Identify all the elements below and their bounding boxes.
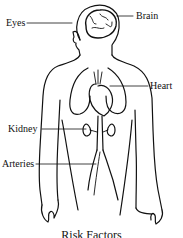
left-shoulder: [39, 55, 80, 205]
head-outline: [77, 5, 119, 55]
face-profile: [73, 31, 80, 55]
right-arm-inner: [135, 110, 136, 208]
left-arm-inner: [57, 100, 60, 200]
left-hand: [41, 200, 58, 222]
label-kidney: Kidney: [8, 124, 37, 134]
right-lung: [106, 68, 126, 114]
label-brain: Brain: [136, 11, 158, 21]
left-lung: [70, 68, 90, 114]
figure-caption: Risk Factors: [0, 229, 183, 238]
iliac-arteries: [88, 150, 118, 200]
body-diagram: [0, 0, 183, 238]
heart-shape: [89, 84, 112, 116]
right-hand: [136, 208, 163, 224]
aorta: [97, 116, 103, 150]
label-heart: Heart: [150, 81, 172, 91]
label-eyes: Eyes: [6, 18, 25, 28]
torso-right: [120, 120, 132, 215]
label-arteries: Arteries: [2, 159, 34, 169]
torso-left: [62, 120, 78, 210]
